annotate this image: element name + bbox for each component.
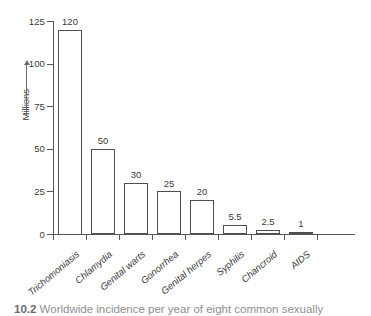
figure-caption-number: 10.2: [14, 303, 36, 315]
y-tick-mark: [47, 21, 53, 22]
bar-value-label: 20: [190, 187, 214, 197]
x-tick-mark: [119, 234, 120, 240]
x-category-label-aids: AIDS: [289, 249, 312, 271]
bar-chlamydia: [91, 149, 115, 234]
x-tick-mark: [152, 234, 153, 240]
bar-gonorrhea: [157, 191, 181, 234]
y-tick-label: 100: [29, 59, 45, 69]
y-tick-label: 125: [29, 17, 45, 27]
bar-chancroid: [256, 230, 280, 234]
bar-value-label: 50: [91, 136, 115, 146]
bar-aids: [289, 232, 313, 234]
bar-value-label: 120: [58, 17, 82, 27]
y-tick-label: 75: [34, 102, 45, 112]
x-tick-mark: [251, 234, 252, 240]
x-category-label-trichomoniasis: Trichomoniasis: [26, 249, 81, 297]
y-tick-mark: [47, 106, 53, 107]
y-tick-mark: [47, 191, 53, 192]
x-category-label-chancroid: Chancroid: [240, 249, 280, 285]
bar-syphilis: [223, 225, 247, 234]
y-tick-label: 0: [40, 230, 45, 240]
x-tick-mark: [185, 234, 186, 240]
bar-value-label: 5.5: [221, 212, 249, 222]
up-arrow-icon: [26, 64, 27, 116]
y-tick-label: 50: [34, 144, 45, 154]
bar-value-label: 30: [124, 170, 148, 180]
y-tick-mark: [47, 149, 53, 150]
x-tick-mark: [86, 234, 87, 240]
x-tick-mark: [284, 234, 285, 240]
y-axis-line: [53, 21, 54, 234]
y-tick-mark: [47, 64, 53, 65]
bar-value-label: 25: [157, 179, 181, 189]
x-tick-mark: [317, 234, 318, 240]
x-tick-mark: [53, 234, 54, 240]
figure-caption: 10.2 Worldwide incidence per year of eig…: [14, 303, 364, 316]
bar-genital-warts: [124, 183, 148, 234]
bar-value-label: 2.5: [254, 217, 282, 227]
bar-value-label: 1: [289, 219, 313, 229]
x-tick-mark: [218, 234, 219, 240]
bar-trichomoniasis: [58, 30, 82, 235]
bar-chart-figure: Millions 0 25 50 75 100 125 120 50 30 25…: [0, 0, 371, 316]
y-tick-label: 25: [34, 187, 45, 197]
bar-genital-herpes: [190, 200, 214, 234]
figure-caption-text: Worldwide incidence per year of eight co…: [40, 303, 324, 315]
